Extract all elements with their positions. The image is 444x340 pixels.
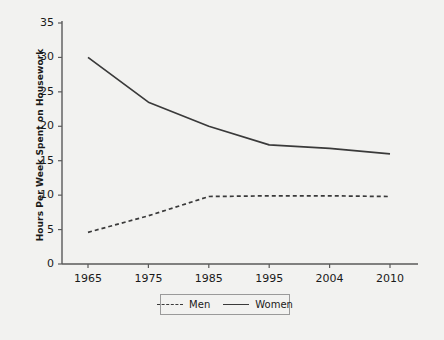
series-line-men bbox=[88, 196, 390, 232]
y-tick-label: 10 bbox=[30, 189, 54, 200]
legend-entry-women: Women bbox=[223, 300, 293, 310]
legend-label-women: Women bbox=[255, 300, 293, 310]
line-chart: Hours Per Week Spent on Housework 051015… bbox=[0, 0, 444, 340]
x-tick-label: 1975 bbox=[118, 273, 178, 284]
series-line-women bbox=[88, 57, 390, 153]
solid-line-icon bbox=[223, 304, 249, 305]
y-tick-label: 35 bbox=[30, 17, 54, 28]
y-tick-label: 20 bbox=[30, 120, 54, 131]
y-tick-label: 5 bbox=[30, 224, 54, 235]
plot-area bbox=[0, 0, 444, 340]
x-tick-label: 2004 bbox=[300, 273, 360, 284]
x-tick-label: 1965 bbox=[58, 273, 118, 284]
chart-legend: Men Women bbox=[160, 294, 290, 315]
x-tick-label: 1985 bbox=[179, 273, 239, 284]
x-tick-label: 1995 bbox=[239, 273, 299, 284]
y-tick-label: 25 bbox=[30, 86, 54, 97]
y-tick-label: 15 bbox=[30, 155, 54, 166]
legend-label-men: Men bbox=[189, 300, 210, 310]
legend-entry-men: Men bbox=[157, 300, 210, 310]
dashed-line-icon bbox=[157, 304, 183, 305]
y-tick-label: 30 bbox=[30, 51, 54, 62]
x-tick-label: 2010 bbox=[360, 273, 420, 284]
y-tick-label: 0 bbox=[30, 258, 54, 269]
